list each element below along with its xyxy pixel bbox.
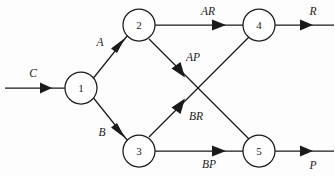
- node-3[interactable]: 3: [123, 135, 155, 167]
- node-1[interactable]: 1: [65, 72, 97, 104]
- node-1-label: 1: [78, 82, 84, 94]
- arrowhead-output-p: [300, 146, 313, 157]
- arrowhead-2-4: [212, 20, 226, 31]
- edge-output-r: [275, 20, 334, 31]
- edge-label-bp: BP: [202, 158, 216, 170]
- edge-label-br: BR: [189, 110, 203, 122]
- edge-label-c: C: [29, 67, 37, 79]
- diagram-canvas: 1 2 3 4 5 C A B AR AP BR BP R P: [0, 0, 335, 176]
- node-4[interactable]: 4: [243, 9, 275, 41]
- edge-label-p: P: [308, 159, 316, 171]
- edge-label-b: B: [98, 126, 105, 138]
- edge-input-c: [5, 83, 65, 94]
- edge-label-a: A: [95, 36, 104, 48]
- node-4-label: 4: [256, 19, 262, 31]
- flow-network-graph: 1 2 3 4 5 C A B AR AP BR BP R P: [0, 0, 335, 176]
- arrowhead-output-r: [300, 20, 313, 31]
- arrowhead-3-5: [212, 146, 226, 157]
- edge-3-to-5: [155, 146, 243, 157]
- edge-output-p: [275, 146, 334, 157]
- node-3-label: 3: [136, 145, 142, 157]
- edge-label-r: R: [308, 5, 316, 17]
- node-5-label: 5: [256, 145, 262, 157]
- arrowhead-1-2: [111, 38, 125, 53]
- node-2-label: 2: [136, 19, 142, 31]
- arrowhead-1-3: [111, 123, 125, 138]
- node-2[interactable]: 2: [123, 9, 155, 41]
- arrowhead-input-c: [40, 83, 52, 94]
- edge-label-ar: AR: [200, 5, 215, 17]
- edge-label-ap: AP: [185, 51, 200, 63]
- node-5[interactable]: 5: [243, 135, 275, 167]
- edge-2-to-4: [155, 20, 243, 31]
